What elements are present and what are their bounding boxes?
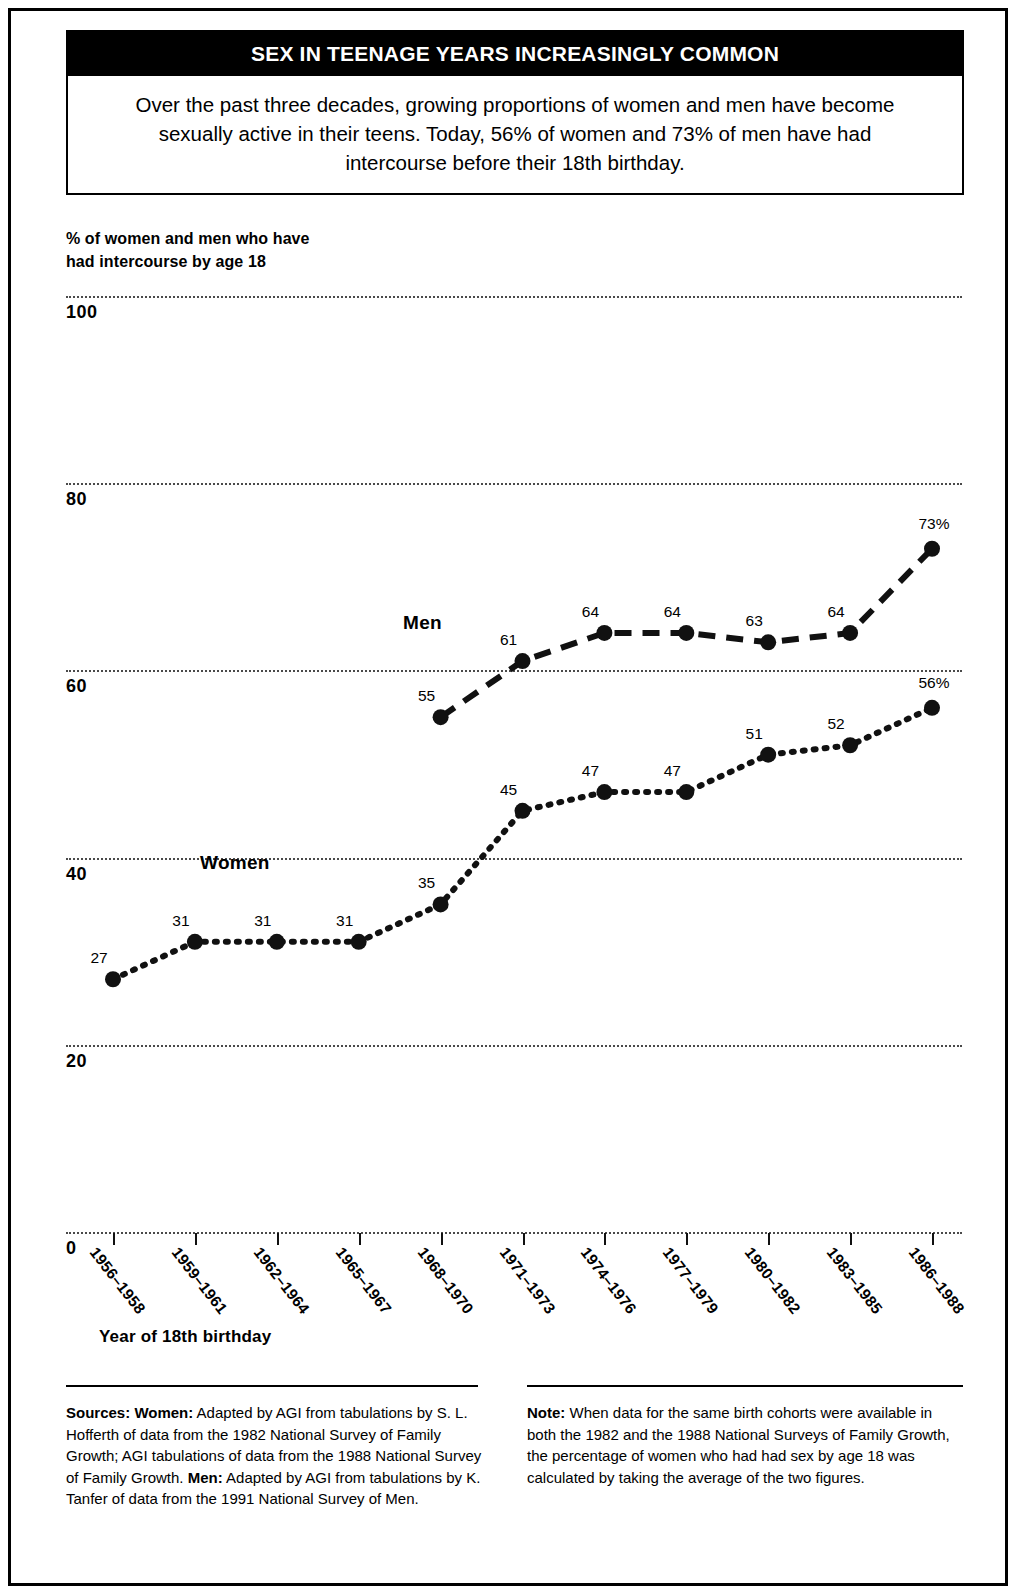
point-label-men-9: 64 bbox=[827, 603, 844, 621]
data-point-women-8 bbox=[760, 747, 776, 763]
point-label-women-10: 56% bbox=[918, 674, 949, 692]
point-label-men-8: 63 bbox=[746, 612, 763, 630]
data-point-men-5 bbox=[515, 653, 531, 669]
data-point-men-8 bbox=[760, 634, 776, 650]
sources-note: Sources: Women: Adapted by AGI from tabu… bbox=[66, 1402, 486, 1510]
x-tick-5 bbox=[523, 1233, 525, 1245]
sources-women-label: Women: bbox=[134, 1404, 193, 1421]
data-point-women-1 bbox=[187, 934, 203, 950]
point-label-men-7: 64 bbox=[664, 603, 681, 621]
x-tick-8 bbox=[768, 1233, 770, 1245]
point-label-women-9: 52 bbox=[827, 715, 844, 733]
x-tick-10 bbox=[932, 1233, 934, 1245]
data-point-men-7 bbox=[678, 625, 694, 641]
data-point-women-5 bbox=[515, 803, 531, 819]
x-tick-label-3: 1965–1967 bbox=[332, 1244, 395, 1318]
data-point-women-10 bbox=[924, 700, 940, 716]
data-point-women-7 bbox=[678, 784, 694, 800]
series-label-women: Women bbox=[200, 852, 270, 874]
data-point-men-10 bbox=[924, 541, 940, 557]
x-tick-0 bbox=[113, 1233, 115, 1245]
methodology-note: Note: When data for the same birth cohor… bbox=[527, 1402, 963, 1488]
infographic-page: SEX IN TEENAGE YEARS INCREASINGLY COMMON… bbox=[0, 0, 1016, 1594]
x-tick-label-4: 1968–1970 bbox=[413, 1244, 476, 1318]
x-tick-6 bbox=[604, 1233, 606, 1245]
series-label-men: Men bbox=[403, 612, 442, 634]
data-point-women-0 bbox=[105, 971, 121, 987]
data-point-men-4 bbox=[433, 709, 449, 725]
y-tick-label-60: 60 bbox=[66, 676, 87, 697]
point-label-women-2: 31 bbox=[254, 912, 271, 930]
x-tick-label-6: 1974–1976 bbox=[577, 1244, 640, 1318]
x-tick-7 bbox=[686, 1233, 688, 1245]
gridline-100 bbox=[66, 296, 962, 298]
point-label-men-5: 61 bbox=[500, 631, 517, 649]
y-tick-label-100: 100 bbox=[66, 302, 98, 323]
footer-divider-left bbox=[66, 1385, 478, 1387]
note-label: Note: bbox=[527, 1404, 565, 1421]
gridline-20 bbox=[66, 1045, 962, 1047]
x-tick-4 bbox=[441, 1233, 443, 1245]
y-tick-label-20: 20 bbox=[66, 1051, 87, 1072]
x-tick-label-5: 1971–1973 bbox=[495, 1244, 558, 1318]
data-point-women-3 bbox=[351, 934, 367, 950]
x-tick-1 bbox=[195, 1233, 197, 1245]
x-tick-label-0: 1956–1958 bbox=[86, 1244, 149, 1318]
y-tick-label-80: 80 bbox=[66, 489, 87, 510]
point-label-women-4: 35 bbox=[418, 874, 435, 892]
x-tick-label-10: 1986–1988 bbox=[905, 1244, 968, 1318]
point-label-men-6: 64 bbox=[582, 603, 599, 621]
data-point-women-6 bbox=[596, 784, 612, 800]
note-text: When data for the same birth cohorts wer… bbox=[527, 1404, 950, 1486]
point-label-women-1: 31 bbox=[172, 912, 189, 930]
data-point-men-9 bbox=[842, 625, 858, 641]
gridline-80 bbox=[66, 483, 962, 485]
x-tick-3 bbox=[359, 1233, 361, 1245]
point-label-women-6: 47 bbox=[582, 762, 599, 780]
series-line-women bbox=[113, 708, 932, 979]
point-label-women-8: 51 bbox=[746, 725, 763, 743]
x-tick-label-2: 1962–1964 bbox=[250, 1244, 313, 1318]
point-label-men-10: 73% bbox=[918, 515, 949, 533]
chart: 020406080100 1956–19581959–19611962–1964… bbox=[0, 0, 1016, 1594]
x-axis-title: Year of 18th birthday bbox=[99, 1327, 271, 1347]
y-tick-label-40: 40 bbox=[66, 864, 87, 885]
y-tick-label-0: 0 bbox=[66, 1238, 77, 1259]
data-point-women-9 bbox=[842, 737, 858, 753]
x-tick-label-9: 1983–1985 bbox=[823, 1244, 886, 1318]
point-label-women-7: 47 bbox=[664, 762, 681, 780]
x-tick-9 bbox=[850, 1233, 852, 1245]
point-label-men-4: 55 bbox=[418, 687, 435, 705]
x-tick-2 bbox=[277, 1233, 279, 1245]
x-tick-label-1: 1959–1961 bbox=[168, 1244, 231, 1318]
data-point-women-2 bbox=[269, 934, 285, 950]
point-label-women-3: 31 bbox=[336, 912, 353, 930]
sources-label: Sources: bbox=[66, 1404, 130, 1421]
point-label-women-0: 27 bbox=[90, 949, 107, 967]
gridline-0 bbox=[66, 1232, 962, 1234]
footer-divider-right bbox=[527, 1385, 963, 1387]
data-point-women-4 bbox=[433, 896, 449, 912]
x-tick-label-7: 1977–1979 bbox=[659, 1244, 722, 1318]
data-point-men-6 bbox=[596, 625, 612, 641]
x-tick-label-8: 1980–1982 bbox=[741, 1244, 804, 1318]
gridline-60 bbox=[66, 670, 962, 672]
sources-men-label: Men: bbox=[188, 1469, 223, 1486]
point-label-women-5: 45 bbox=[500, 781, 517, 799]
